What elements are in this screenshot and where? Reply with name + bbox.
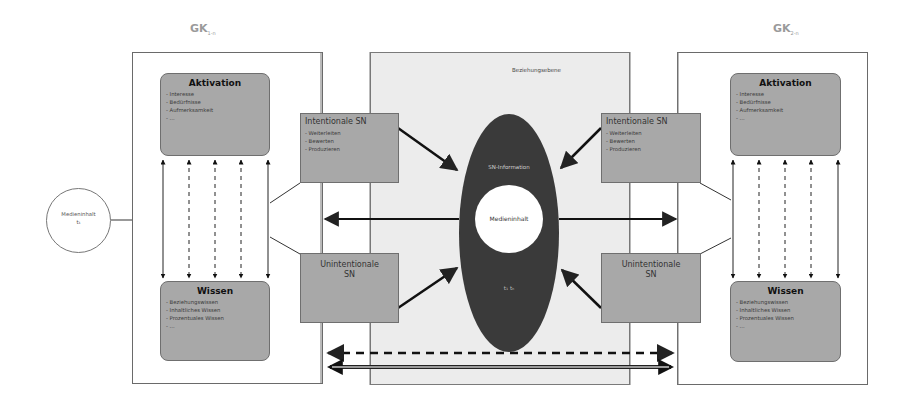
intentional-sn-item: - Bewerten (606, 137, 696, 145)
intentional-sn-item: - Bewerten (305, 137, 394, 145)
media-content-source-time: t₁ (47, 219, 110, 225)
knowledge-box-left: Wissen - Beziehungswissen - Inhaltliches… (160, 281, 270, 361)
knowledge-item: - Inhaltliches Wissen (166, 306, 264, 314)
knowledge-item: - Beziehungswissen (736, 298, 835, 306)
intentional-sn-title: Intentionale SN (305, 117, 394, 126)
activation-item: - Bedürfnisse (166, 98, 264, 106)
intentional-sn-title: Intentionale SN (606, 117, 696, 126)
knowledge-item: - Prozentuales Wissen (166, 314, 264, 322)
unintentional-sn-box-right: Unintentionale SN (601, 253, 701, 323)
activation-item: - Bedürfnisse (736, 98, 835, 106)
knowledge-item: - ... (736, 322, 835, 330)
sn-information-label: SN-Information (470, 164, 548, 170)
activation-item: - ... (166, 114, 264, 122)
activation-item: - Aufmerksamkeit (166, 106, 264, 114)
media-content-source-label: Medieninhalt (47, 211, 110, 217)
knowledge-title: Wissen (736, 286, 835, 296)
activation-item: - Aufmerksamkeit (736, 106, 835, 114)
unintentional-sn-box-left: Unintentionale SN (300, 253, 399, 323)
activation-item: - ... (736, 114, 835, 122)
intentional-sn-box-right: Intentionale SN - Weiterleiten - Bewerte… (601, 113, 701, 183)
knowledge-item: - Beziehungswissen (166, 298, 264, 306)
unintentional-sn-title-line2: SN (606, 270, 696, 280)
activation-item: - Interesse (166, 90, 264, 98)
activation-title: Aktivation (166, 78, 264, 88)
activation-box-left: Aktivation - Interesse - Bedürfnisse - A… (160, 73, 270, 156)
knowledge-title: Wissen (166, 286, 264, 296)
unintentional-sn-title-line1: Unintentionale (305, 260, 394, 270)
knowledge-item: - ... (166, 322, 264, 330)
media-content-source: Medieninhalt t₁ (46, 188, 111, 253)
knowledge-box-right: Wissen - Beziehungswissen - Inhaltliches… (730, 281, 841, 362)
intentional-sn-item: - Produzieren (305, 145, 394, 153)
unintentional-sn-title-line1: Unintentionale (606, 260, 696, 270)
intentional-sn-item: - Weiterleiten (305, 129, 394, 137)
activation-item: - Interesse (736, 90, 835, 98)
intentional-sn-box-left: Intentionale SN - Weiterleiten - Bewerte… (300, 113, 399, 183)
knowledge-item: - Inhaltliches Wissen (736, 306, 835, 314)
intentional-sn-item: - Weiterleiten (606, 129, 696, 137)
media-content-label: Medieninhalt (475, 185, 543, 253)
activation-box-right: Aktivation - Interesse - Bedürfnisse - A… (730, 73, 841, 156)
activation-title: Aktivation (736, 78, 835, 88)
knowledge-item: - Prozentuales Wissen (736, 314, 835, 322)
intentional-sn-item: - Produzieren (606, 145, 696, 153)
time-label: t₁ tₙ (489, 285, 529, 291)
unintentional-sn-title-line2: SN (305, 270, 394, 280)
